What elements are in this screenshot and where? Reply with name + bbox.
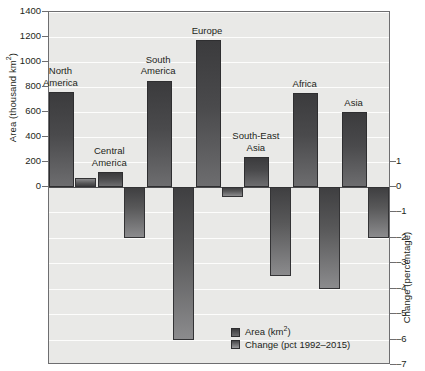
legend-item-change: Change (pct 1992–2015): [231, 339, 350, 352]
gridline: [49, 37, 389, 38]
y-tick-right--7: –7: [396, 358, 424, 369]
y-tick-left-1200: 1200: [7, 30, 41, 41]
category-label: South-EastAsia: [219, 130, 293, 153]
y-tick-mark-right--2: [390, 237, 396, 238]
bar-change: [222, 187, 243, 197]
chart-figure: Area (thousand km2) Change (percentage) …: [0, 0, 425, 371]
bar-area: [293, 93, 318, 187]
category-label: CentralAmerica: [72, 145, 146, 168]
y-tick-left-200: 200: [7, 155, 41, 166]
bar-area: [196, 40, 221, 187]
y-tick-mark-right--1: [390, 211, 396, 212]
bar-change: [368, 187, 389, 238]
category-label: NorthAmerica: [23, 65, 97, 88]
bar-area: [342, 112, 367, 187]
y-tick-right--1: –1: [396, 205, 424, 216]
bar-area: [49, 92, 74, 187]
bar-change: [173, 187, 194, 340]
legend-swatch-change-icon: [231, 340, 240, 349]
y-tick-right--6: –6: [396, 333, 424, 344]
legend-swatch-area-icon: [231, 328, 240, 337]
bar-change: [75, 178, 96, 187]
gridline: [49, 289, 389, 290]
y-tick-left-600: 600: [7, 105, 41, 116]
gridline: [49, 12, 389, 13]
y-tick-right-1: 1: [396, 155, 424, 166]
y-tick-right--3: –3: [396, 256, 424, 267]
bar-area: [244, 157, 269, 187]
bar-area: [147, 81, 172, 187]
category-label: SouthAmerica: [121, 54, 195, 77]
y-tick-mark-right--7: [390, 364, 396, 365]
category-label: Asia: [317, 97, 391, 109]
category-label: Europe: [170, 25, 244, 37]
bar-change: [319, 187, 340, 289]
y-tick-mark-right--3: [390, 262, 396, 263]
y-tick-mark-right-1: [390, 161, 396, 162]
plot-area: [48, 11, 390, 364]
bar-change: [270, 187, 291, 276]
legend-label-area: Area (km2): [245, 326, 291, 339]
y-tick-left-0: 0: [7, 180, 41, 191]
y-tick-left-400: 400: [7, 130, 41, 141]
gridline: [49, 314, 389, 315]
y-tick-right-0: 0: [396, 180, 424, 191]
y-tick-mark-right--5: [390, 313, 396, 314]
bar-change: [124, 187, 145, 238]
bar-area: [98, 172, 123, 187]
y-tick-right--4: –4: [396, 282, 424, 293]
y-tick-mark-right--4: [390, 288, 396, 289]
chart-legend: Area (km2) Change (pct 1992–2015): [231, 326, 350, 351]
legend-item-area: Area (km2): [231, 326, 350, 339]
y-tick-right--5: –5: [396, 307, 424, 318]
y-tick-mark-right-0: [390, 186, 396, 187]
y-tick-mark-right--6: [390, 339, 396, 340]
y-tick-right--2: –2: [396, 231, 424, 242]
y-tick-left-1400: 1400: [7, 5, 41, 16]
legend-label-change: Change (pct 1992–2015): [245, 339, 350, 352]
category-label: Africa: [268, 78, 342, 90]
